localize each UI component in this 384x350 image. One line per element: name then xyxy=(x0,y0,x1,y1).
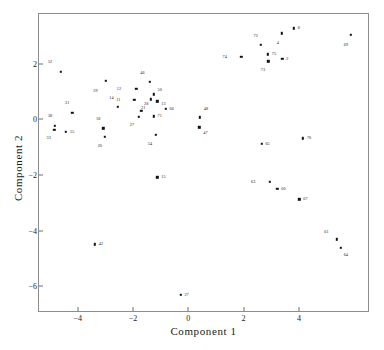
scatter-point[interactable] xyxy=(156,176,158,178)
scatter-point[interactable] xyxy=(269,181,271,183)
scatter-point[interactable] xyxy=(302,137,304,139)
plot-area: −4−202420−2−4−65229461250141121133128277… xyxy=(38,13,369,312)
scatter-point-label: 72 xyxy=(254,34,258,38)
scatter-point-label: 13 xyxy=(161,102,165,106)
scatter-point[interactable] xyxy=(164,108,166,110)
scatter-point-label: 71 xyxy=(158,114,162,118)
scatter-point[interactable] xyxy=(260,44,262,46)
x-tick-mark xyxy=(133,307,134,311)
scatter-point[interactable] xyxy=(155,134,157,136)
scatter-point-label: 27 xyxy=(184,293,188,297)
y-tick-label: −2 xyxy=(28,170,37,179)
scatter-point-label: 12 xyxy=(117,87,121,91)
y-tick-label: 0 xyxy=(33,115,37,124)
scatter-point[interactable] xyxy=(198,126,200,128)
scatter-point[interactable] xyxy=(153,115,155,117)
scatter-point-label: 48 xyxy=(204,107,208,111)
scatter-point[interactable] xyxy=(65,131,67,133)
scatter-point-label: 28 xyxy=(144,102,148,106)
scatter-point[interactable] xyxy=(267,53,269,55)
scatter-point[interactable] xyxy=(281,32,283,34)
scatter-point[interactable] xyxy=(133,99,135,101)
scatter-point-label: 54 xyxy=(148,142,152,146)
scatter-point-label: 42 xyxy=(99,242,103,246)
x-tick-mark xyxy=(188,307,189,311)
scatter-point-label: 69 xyxy=(344,43,348,47)
scatter-point-label: 33 xyxy=(47,136,51,140)
scatter-point[interactable] xyxy=(102,127,104,129)
y-tick-label: 2 xyxy=(33,59,37,68)
y-tick-label: −4 xyxy=(28,226,37,235)
scatter-point-label: 2 xyxy=(286,57,288,61)
scatter-point[interactable] xyxy=(140,109,142,111)
scatter-point-label: 64 xyxy=(344,253,348,257)
scatter-point-label: 75 xyxy=(272,52,276,56)
scatter-point[interactable] xyxy=(54,124,56,126)
scatter-point-label: 38 xyxy=(48,114,52,118)
scatter-point[interactable] xyxy=(117,106,119,108)
x-tick-label: −2 xyxy=(129,314,138,323)
scatter-point[interactable] xyxy=(156,100,158,102)
scatter-point[interactable] xyxy=(150,98,152,100)
x-tick-mark xyxy=(298,307,299,311)
scatter-point-label: 31 xyxy=(65,101,69,105)
scatter-point-label: 4 xyxy=(277,41,279,45)
scatter-point-label: 8 xyxy=(298,26,300,30)
x-tick-label: −4 xyxy=(73,314,82,323)
scatter-point-label: 46 xyxy=(140,71,144,75)
scatter-point[interactable] xyxy=(153,93,155,95)
scatter-point[interactable] xyxy=(298,198,300,200)
scatter-point-label: 50 xyxy=(158,88,162,92)
scatter-point-label: 60 xyxy=(281,187,285,191)
y-tick-mark xyxy=(39,63,43,64)
scatter-point-label: 67 xyxy=(303,197,307,201)
scatter-point[interactable] xyxy=(104,135,106,137)
scatter-point-label: 15 xyxy=(161,175,165,179)
x-axis-label: Component 1 xyxy=(38,325,369,337)
scatter-point-label: 29 xyxy=(93,88,97,92)
scatter-point[interactable] xyxy=(276,188,278,190)
scatter-point-label: 18 xyxy=(96,117,100,121)
scatter-point-label: 73 xyxy=(261,68,265,72)
x-tick-mark xyxy=(77,307,78,311)
scatter-point-label: 47 xyxy=(203,131,207,135)
scatter-point[interactable] xyxy=(340,247,342,249)
x-tick-label: 0 xyxy=(186,314,190,323)
scatter-point[interactable] xyxy=(240,56,242,58)
scatter-point-label: 14 xyxy=(109,96,113,100)
scatter-point[interactable] xyxy=(138,115,140,117)
scatter-point[interactable] xyxy=(71,111,73,113)
scatter-plot-figure: −4−202420−2−4−65229461250141121133128277… xyxy=(0,0,384,350)
x-tick-label: 4 xyxy=(297,314,301,323)
scatter-point-label: 70 xyxy=(307,136,311,140)
scatter-point[interactable] xyxy=(281,58,283,60)
scatter-point[interactable] xyxy=(59,71,61,73)
scatter-point[interactable] xyxy=(267,60,269,62)
scatter-point[interactable] xyxy=(336,238,338,240)
scatter-point[interactable] xyxy=(53,129,55,131)
scatter-point[interactable] xyxy=(105,79,107,81)
scatter-point[interactable] xyxy=(94,243,96,245)
scatter-point-label: 63 xyxy=(251,180,255,184)
scatter-point-label: 52 xyxy=(48,60,52,64)
scatter-point[interactable] xyxy=(179,294,181,296)
x-tick-mark xyxy=(243,307,244,311)
scatter-point-label: 66 xyxy=(169,107,173,111)
scatter-point[interactable] xyxy=(260,143,262,145)
y-tick-mark xyxy=(39,230,43,231)
scatter-point-label: 55 xyxy=(70,130,74,134)
scatter-point[interactable] xyxy=(135,88,137,90)
scatter-point[interactable] xyxy=(199,116,201,118)
scatter-point[interactable] xyxy=(148,81,150,83)
scatter-point-label: 27 xyxy=(130,123,134,127)
scatter-point-label: 11 xyxy=(116,98,120,102)
scatter-point-label: 61 xyxy=(324,230,328,234)
x-tick-label: 2 xyxy=(242,314,246,323)
y-axis-label: Component 2 xyxy=(12,98,24,238)
scatter-point-label: 65 xyxy=(265,142,269,146)
scatter-point[interactable] xyxy=(293,27,295,29)
y-tick-mark xyxy=(39,174,43,175)
scatter-point-label: 20 xyxy=(98,144,102,148)
scatter-point[interactable] xyxy=(350,34,352,36)
scatter-point-label: 74 xyxy=(223,55,227,59)
